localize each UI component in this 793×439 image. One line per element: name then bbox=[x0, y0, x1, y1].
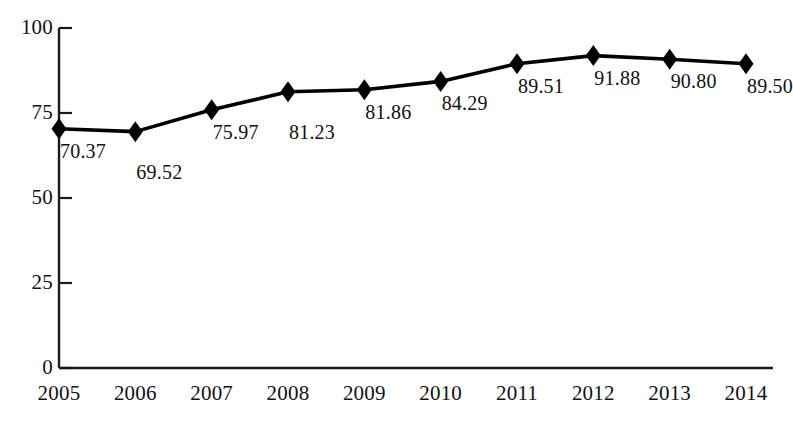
data-point-marker bbox=[739, 53, 754, 74]
y-axis-tick-label: 50 bbox=[32, 187, 53, 208]
data-point-marker bbox=[128, 121, 143, 142]
data-point-marker bbox=[662, 49, 677, 70]
data-point-marker bbox=[433, 71, 448, 92]
data-point-marker bbox=[510, 53, 525, 74]
x-axis-tick-label: 2014 bbox=[701, 383, 791, 404]
data-point-value-label: 75.97 bbox=[213, 122, 259, 142]
data-point-value-label: 89.51 bbox=[518, 76, 564, 96]
data-point-marker bbox=[204, 99, 219, 120]
data-point-value-label: 81.86 bbox=[365, 102, 411, 122]
data-point-marker bbox=[357, 79, 372, 100]
data-point-value-label: 84.29 bbox=[442, 93, 488, 113]
data-point-value-label: 90.80 bbox=[671, 71, 717, 91]
data-point-value-label: 70.37 bbox=[60, 141, 106, 161]
data-point-value-label: 89.50 bbox=[747, 76, 793, 96]
y-axis-tick-label: 75 bbox=[32, 102, 53, 123]
y-axis-tick-label: 0 bbox=[42, 357, 53, 378]
data-point-marker bbox=[281, 81, 296, 102]
y-axis-tick-label: 25 bbox=[32, 272, 53, 293]
data-point-value-label: 91.88 bbox=[594, 68, 640, 88]
data-point-marker bbox=[52, 118, 67, 139]
y-axis-ticks bbox=[59, 28, 72, 368]
data-point-value-label: 69.52 bbox=[136, 162, 182, 182]
data-point-value-label: 81.23 bbox=[289, 122, 335, 142]
data-point-marker bbox=[586, 45, 601, 66]
y-axis-tick-label: 100 bbox=[21, 17, 53, 38]
